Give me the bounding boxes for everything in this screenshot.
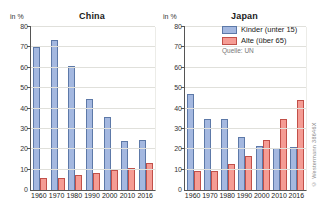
y-tick-label: 10 bbox=[174, 166, 182, 174]
legend: Kinder (unter 15) Alte (über 65) bbox=[222, 25, 297, 47]
y-tick-label: 50 bbox=[20, 84, 28, 92]
bar-alte-1990 bbox=[93, 173, 100, 190]
y-tick-label: 20 bbox=[20, 145, 28, 153]
axis-tick bbox=[181, 26, 185, 27]
gridline bbox=[31, 148, 155, 149]
bar-group-2016 bbox=[137, 27, 155, 190]
axis-tick bbox=[27, 128, 31, 129]
alte-swatch-icon bbox=[222, 37, 237, 45]
axis-tick bbox=[27, 87, 31, 88]
gridline bbox=[31, 67, 155, 68]
x-tick-label: 1960 bbox=[184, 192, 201, 199]
x-tick-label: 1970 bbox=[48, 192, 66, 199]
copyright-label: © Westermann 38646X bbox=[311, 72, 317, 187]
bar-group-1960 bbox=[31, 27, 49, 190]
japan-chart: in % Japan 80706050403020100 19601970198… bbox=[160, 0, 321, 209]
axis-tick bbox=[27, 108, 31, 109]
y-tick-label: 50 bbox=[174, 84, 182, 92]
bar-kinder-1970 bbox=[51, 40, 58, 190]
bar-alte-1980 bbox=[75, 175, 82, 190]
bar-group-2016 bbox=[289, 27, 306, 190]
bar-alte-1960 bbox=[40, 178, 47, 190]
y-axis-labels: 80706050403020100 bbox=[162, 27, 182, 190]
gridline bbox=[31, 87, 155, 88]
bar-alte-1970 bbox=[211, 171, 218, 190]
y-tick-label: 30 bbox=[20, 125, 28, 133]
x-tick-label: 1970 bbox=[201, 192, 218, 199]
x-tick-label: 1990 bbox=[83, 192, 101, 199]
bar-alte-2016 bbox=[297, 100, 304, 190]
x-tick-label: 2016 bbox=[136, 192, 154, 199]
bar-kinder-1960 bbox=[187, 94, 194, 190]
gridline bbox=[31, 128, 155, 129]
bar-group-2000 bbox=[102, 27, 120, 190]
gridline bbox=[185, 108, 306, 109]
bar-group-2010 bbox=[271, 27, 288, 190]
bar-alte-2010 bbox=[128, 168, 135, 190]
demographics-figure: in % China 80706050403020100 19601970198… bbox=[0, 0, 321, 209]
bar-kinder-1990 bbox=[238, 137, 245, 190]
bar-kinder-1990 bbox=[86, 99, 93, 190]
bar-kinder-1970 bbox=[204, 119, 211, 190]
axis-tick bbox=[181, 128, 185, 129]
gridline bbox=[185, 148, 306, 149]
china-chart: in % China 80706050403020100 19601970198… bbox=[0, 0, 160, 209]
axis-tick bbox=[27, 169, 31, 170]
axis-tick bbox=[27, 148, 31, 149]
y-axis-labels: 80706050403020100 bbox=[8, 27, 28, 190]
x-tick-label: 2016 bbox=[288, 192, 305, 199]
x-tick-label: 2010 bbox=[270, 192, 287, 199]
gridline bbox=[31, 46, 155, 47]
bar-kinder-1980 bbox=[221, 119, 228, 190]
axis-tick bbox=[181, 169, 185, 170]
y-tick-label: 0 bbox=[24, 186, 28, 194]
bar-groups bbox=[31, 27, 155, 190]
axis-tick bbox=[181, 148, 185, 149]
bar-group-1990 bbox=[84, 27, 102, 190]
axis-tick bbox=[27, 26, 31, 27]
y-axis-unit-label: in % bbox=[10, 13, 24, 20]
bar-group-1970 bbox=[202, 27, 219, 190]
legend-item-kinder: Kinder (unter 15) bbox=[222, 25, 297, 34]
axis-tick bbox=[27, 67, 31, 68]
y-tick-label: 80 bbox=[20, 23, 28, 31]
gridline bbox=[185, 67, 306, 68]
gridline bbox=[185, 128, 306, 129]
x-tick-label: 1990 bbox=[236, 192, 253, 199]
y-tick-label: 40 bbox=[20, 105, 28, 113]
y-tick-label: 30 bbox=[174, 125, 182, 133]
x-tick-label: 2000 bbox=[101, 192, 119, 199]
legend-label-alte: Alte (über 65) bbox=[241, 36, 286, 45]
bar-group-2000 bbox=[254, 27, 271, 190]
y-tick-label: 60 bbox=[20, 64, 28, 72]
x-axis-labels: 1960197019801990200020102016 bbox=[30, 192, 154, 199]
axis-tick bbox=[181, 87, 185, 88]
y-tick-label: 0 bbox=[178, 186, 182, 194]
x-tick-label: 2010 bbox=[119, 192, 137, 199]
x-tick-label: 1980 bbox=[65, 192, 83, 199]
y-tick-label: 80 bbox=[174, 23, 182, 31]
y-axis-unit-label: in % bbox=[163, 13, 177, 20]
y-tick-label: 70 bbox=[174, 43, 182, 51]
plot-area-china bbox=[30, 27, 156, 191]
source-label: Quelle: UN bbox=[222, 47, 254, 54]
x-tick-label: 2000 bbox=[253, 192, 270, 199]
axis-tick bbox=[181, 67, 185, 68]
bar-alte-2016 bbox=[146, 163, 153, 191]
x-tick-label: 1980 bbox=[219, 192, 236, 199]
chart-title-china: China bbox=[30, 11, 154, 21]
chart-title-japan: Japan bbox=[184, 11, 305, 21]
gridline bbox=[185, 87, 306, 88]
y-tick-label: 40 bbox=[174, 105, 182, 113]
x-axis-labels: 1960197019801990200020102016 bbox=[184, 192, 305, 199]
y-tick-label: 70 bbox=[20, 43, 28, 51]
bar-alte-1960 bbox=[194, 171, 201, 190]
bar-alte-1990 bbox=[245, 156, 252, 190]
bar-group-1960 bbox=[185, 27, 202, 190]
bar-group-1980 bbox=[66, 27, 84, 190]
gridline bbox=[185, 169, 306, 170]
axis-tick bbox=[27, 46, 31, 47]
bar-alte-2010 bbox=[280, 119, 287, 190]
bar-group-1970 bbox=[49, 27, 67, 190]
bar-alte-1970 bbox=[58, 178, 65, 190]
